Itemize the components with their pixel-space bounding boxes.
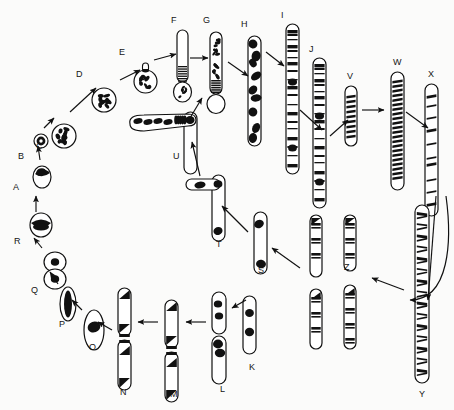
stage-label-z: Z — [344, 263, 350, 272]
stage-label-s: S — [258, 266, 264, 275]
stage-shape-v — [345, 86, 357, 146]
stage-label-c: C — [36, 142, 43, 151]
stage-shape-c — [52, 124, 76, 148]
stage-shape-q — [44, 252, 66, 289]
stage-shape-j — [313, 58, 326, 208]
stage-shape-n — [118, 288, 131, 390]
stage-label-x: X — [428, 70, 434, 79]
diagram-canvas: ABCDEFGHIJKLMNOPQRSTUVWXYZ — [0, 0, 454, 410]
stage-shape-f — [174, 30, 192, 102]
stage-shape-w — [391, 72, 404, 190]
stage-shape-e — [134, 63, 157, 93]
stage-label-b: B — [18, 152, 24, 161]
stage-shape-a — [33, 166, 51, 188]
arrow-z-to-s — [272, 248, 300, 268]
stage-label-k: K — [249, 363, 255, 372]
stage-label-u: U — [173, 152, 180, 161]
arrow-e-to-f — [154, 54, 176, 60]
stage-shape-d — [92, 88, 116, 112]
stage-label-a: A — [13, 183, 19, 192]
arrow-q-to-r — [34, 238, 42, 248]
stage-shape-g — [207, 32, 225, 114]
arrow-h-to-i — [266, 52, 284, 66]
stage-shape-u — [130, 112, 197, 174]
stage-shape-m — [165, 300, 178, 402]
stage-label-p: P — [59, 320, 65, 329]
stage-label-l: L — [220, 385, 225, 394]
stage-label-e: E — [119, 48, 125, 57]
stage-label-q: Q — [31, 286, 38, 295]
chromosome-cycle-illustration — [0, 0, 454, 410]
stage-label-i: I — [281, 11, 284, 20]
stage-shape-p — [60, 287, 76, 321]
arrow-s-to-t — [222, 206, 248, 232]
stage-shape-h — [247, 36, 263, 146]
stage-shape-l — [212, 292, 226, 384]
stage-shape-t — [186, 175, 225, 241]
stage-shape-y — [415, 205, 429, 383]
stage-shape-r — [30, 213, 52, 237]
stage-label-w: W — [393, 58, 402, 67]
stage-label-y: Y — [419, 390, 425, 399]
arrow-y-to-z — [372, 278, 404, 290]
stage-label-t: T — [216, 240, 222, 249]
arrow-g-to-h — [228, 62, 248, 76]
stage-label-r: R — [14, 237, 21, 246]
stage-label-o: O — [89, 343, 96, 352]
stage-label-j: J — [309, 45, 314, 54]
arrow-b-to-c — [44, 118, 54, 128]
stage-label-m: M — [170, 390, 178, 399]
stage-shape-k — [243, 296, 256, 354]
stage-shape-z — [310, 215, 356, 349]
stage-label-v: V — [347, 72, 353, 81]
stage-shape-i — [286, 24, 299, 174]
stage-label-n: N — [120, 388, 127, 397]
stage-label-f: F — [171, 16, 177, 25]
stage-label-h: H — [241, 20, 248, 29]
stage-label-d: D — [76, 70, 83, 79]
stage-label-g: G — [203, 16, 210, 25]
